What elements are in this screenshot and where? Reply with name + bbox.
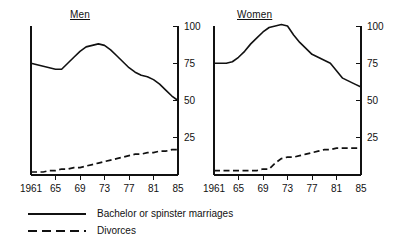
series-line-men-dashed xyxy=(31,150,178,172)
series-line-women-solid xyxy=(214,25,361,88)
x-tick-label-women-1973: 73 xyxy=(282,183,294,194)
x-tick-label-women-1969: 69 xyxy=(257,183,269,194)
line-chart-plot-area: 2550751001961656973778185255075100196165… xyxy=(0,0,401,200)
x-tick-label-women-1985: 85 xyxy=(355,183,367,194)
x-tick-label-men-1977: 77 xyxy=(123,183,135,194)
y-tick-label-women-100: 100 xyxy=(367,21,384,32)
legend-label-divorces: Divorces xyxy=(97,225,136,236)
series-line-women-dashed xyxy=(214,148,361,170)
x-tick-label-women-1961: 1961 xyxy=(203,183,226,194)
legend-label-marriages: Bachelor or spinster marriages xyxy=(97,208,233,219)
legend-item-divorces: Divorces xyxy=(28,222,233,239)
x-tick-label-women-1981: 81 xyxy=(331,183,343,194)
y-tick-label-men-100: 100 xyxy=(184,21,201,32)
chart-legend: Bachelor or spinster marriages Divorces xyxy=(28,205,233,239)
panel-title-women: Women xyxy=(237,9,272,20)
panel-title-men: Men xyxy=(70,9,90,20)
series-line-men-solid xyxy=(31,44,178,101)
x-tick-label-men-1961: 1961 xyxy=(20,183,43,194)
x-tick-label-women-1965: 65 xyxy=(233,183,245,194)
y-tick-label-men-75: 75 xyxy=(184,58,196,69)
y-tick-label-women-25: 25 xyxy=(367,132,379,143)
x-tick-label-men-1985: 85 xyxy=(172,183,184,194)
chart-figure: Men Women 255075100196165697377818525507… xyxy=(0,0,401,243)
y-tick-label-women-75: 75 xyxy=(367,58,379,69)
solid-line-key-icon xyxy=(28,209,86,219)
legend-item-marriages: Bachelor or spinster marriages xyxy=(28,205,233,222)
y-tick-label-men-50: 50 xyxy=(184,95,196,106)
x-tick-label-men-1973: 73 xyxy=(99,183,111,194)
x-tick-label-men-1981: 81 xyxy=(148,183,160,194)
x-tick-label-men-1965: 65 xyxy=(50,183,62,194)
x-tick-label-men-1969: 69 xyxy=(74,183,86,194)
y-tick-label-women-50: 50 xyxy=(367,95,379,106)
y-tick-label-men-25: 25 xyxy=(184,132,196,143)
x-tick-label-women-1977: 77 xyxy=(306,183,318,194)
dashed-line-key-icon xyxy=(28,226,86,236)
